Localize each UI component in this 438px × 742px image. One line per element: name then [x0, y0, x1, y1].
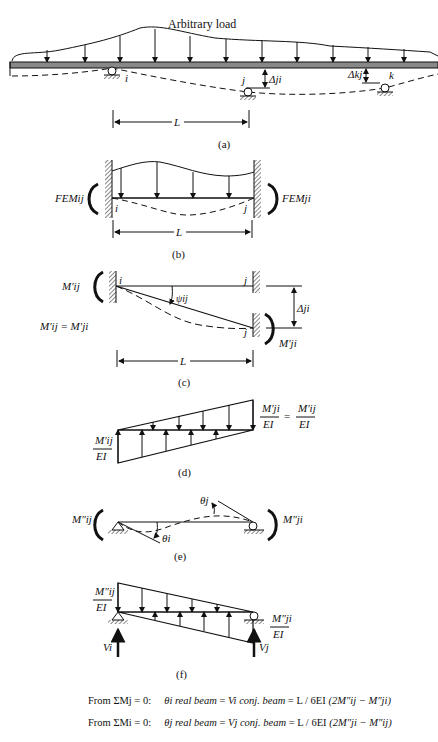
equation-rhs: (2M″ij − M″ji)	[328, 695, 391, 706]
caption-c: (c)	[178, 376, 191, 389]
m-dprime-ij-label: M″ij	[71, 513, 92, 525]
reaction-vi-label: Vi	[103, 641, 112, 653]
psi-ij-label: ψij	[176, 293, 188, 304]
caption-d: (d)	[178, 466, 191, 479]
equation-rhs: (2M″ji − M″ij)	[329, 717, 392, 728]
support-label-j: j	[240, 74, 245, 86]
ei-denominator: EI	[95, 450, 108, 462]
delta-kj-label: Δkj	[347, 68, 362, 80]
fem-ji-label: FEMji	[281, 192, 311, 204]
end-label-i: i	[119, 274, 122, 286]
fem-ij-label: FEMij	[54, 192, 84, 204]
ei-denominator: EI	[95, 601, 108, 613]
end-label-j-settled: j	[242, 326, 247, 338]
caption-a: (a)	[218, 138, 231, 151]
m-prime-ij-over-ei-num: M′ij	[297, 402, 316, 414]
equation-condition: From ΣMj = 0:	[88, 695, 151, 706]
m-prime-ij-over-ei-num: M′ij	[94, 434, 113, 446]
ei-denominator: EI	[262, 418, 275, 430]
m-prime-ji-over-ei-num: M′ji	[261, 402, 280, 414]
equation-lhs: θj real beam	[164, 717, 217, 728]
structural-diagram: Arbitrary load i j	[0, 0, 438, 742]
moment-equality: M′ij = M′ji	[39, 320, 88, 332]
m-prime-ij-label: M′ij	[61, 280, 80, 292]
support-label-i: i	[125, 72, 128, 84]
m-prime-ji-label: M′ji	[278, 337, 297, 349]
support-label-k: k	[389, 69, 395, 81]
delta-ji-label: Δji	[296, 302, 310, 314]
ei-denominator: EI	[272, 628, 285, 640]
caption-f: (f)	[176, 668, 187, 681]
equation-mid: Vi conj. beam	[228, 695, 285, 706]
end-label-j: j	[242, 274, 247, 286]
equals-sign: =	[284, 410, 290, 422]
load-label: Arbitrary load	[168, 17, 236, 31]
equation-theta-j: From ΣMi = 0: θj real beam = Vj conj. be…	[88, 717, 392, 728]
equation-condition: From ΣMi = 0:	[88, 717, 151, 728]
figure-c: ψij i j j M′ij M′ji M′ij = M′ji Δji L (c…	[39, 271, 310, 389]
equation-theta-i: From ΣMj = 0: θi real beam = Vi conj. be…	[88, 695, 391, 706]
equation-coefficient: L / 6EI	[296, 695, 325, 706]
figure-a: Arbitrary load i j	[10, 17, 438, 151]
span-label: L	[173, 116, 180, 128]
caption-b: (b)	[172, 248, 185, 261]
caption-e: (e)	[174, 550, 187, 563]
equation-mid: Vj conj. beam	[228, 717, 286, 728]
delta-ji-label: Δji	[268, 73, 282, 85]
figure-e: θi θj M″ij M″ji (e)	[71, 494, 303, 563]
equation-lhs: θi real beam	[164, 695, 217, 706]
end-label-j: j	[242, 202, 247, 214]
figure-d: M′ij EI M′ji EI = M′ij EI (d)	[93, 400, 316, 479]
reaction-vj-label: Vj	[259, 641, 269, 653]
span-label: L	[179, 355, 186, 367]
ei-denominator: EI	[298, 418, 311, 430]
span-label: L	[175, 226, 182, 238]
equation-coefficient: L / 6EI	[297, 717, 326, 728]
figure-b: FEMij FEMji i j L (b)	[54, 160, 311, 261]
m-dprime-ji-label: M″ji	[282, 513, 303, 525]
figure-f: Vi Vj M″ij EI M″ji EI (f)	[93, 583, 292, 681]
m-dprime-ji-over-ei-num: M″ji	[271, 612, 292, 624]
m-dprime-ij-over-ei-num: M″ij	[94, 585, 115, 597]
theta-j-label: θj	[200, 494, 208, 506]
end-label-i: i	[115, 202, 118, 214]
theta-i-label: θi	[162, 532, 170, 544]
